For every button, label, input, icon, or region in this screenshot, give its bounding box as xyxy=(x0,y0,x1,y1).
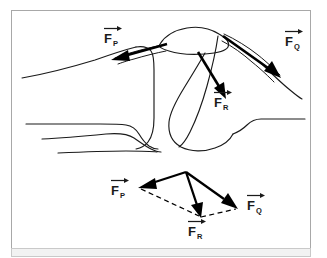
label-fr-parallelogram-subscript: R xyxy=(197,232,203,241)
label-fq-anatomy-subscript: Q xyxy=(294,42,300,51)
label-fq-parallelogram-symbol: F xyxy=(247,198,255,213)
label-fp-parallelogram-symbol: F xyxy=(111,183,119,198)
label-fr-anatomy-subscript: R xyxy=(223,103,229,112)
label-fq-parallelogram-subscript: Q xyxy=(256,206,262,215)
figure-footer-band xyxy=(12,249,311,257)
figure-canvas: F P F Q F R xyxy=(0,0,327,258)
label-fp-parallelogram-subscript: P xyxy=(120,191,125,200)
figure-root: F P F Q F R xyxy=(0,0,327,258)
label-fp-anatomy-symbol: F xyxy=(104,31,112,46)
label-fr-anatomy-symbol: F xyxy=(214,95,222,110)
label-fp-anatomy-subscript: P xyxy=(113,39,118,48)
label-fr-parallelogram-symbol: F xyxy=(188,224,196,239)
label-fq-anatomy-symbol: F xyxy=(285,34,293,49)
